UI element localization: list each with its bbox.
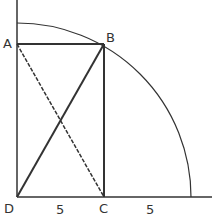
point-label-c: C: [99, 201, 108, 215]
length-label-c-arc: 5: [146, 202, 154, 215]
point-label-a: A: [3, 36, 12, 51]
point-label-d: D: [4, 201, 14, 215]
geometry-diagram: A B D C 5 5: [0, 0, 212, 215]
length-label-dc: 5: [56, 202, 64, 215]
point-label-b: B: [106, 30, 115, 45]
